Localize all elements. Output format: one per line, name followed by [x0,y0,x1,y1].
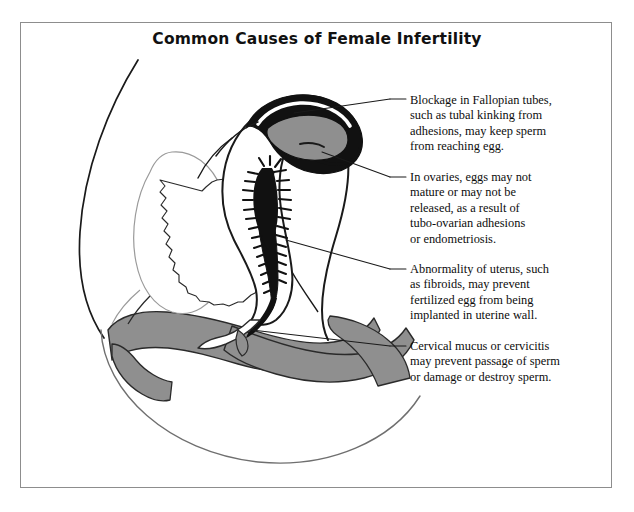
callout-line: adhesions, may keep sperm [410,124,622,139]
callout-line: from reaching egg. [410,139,622,154]
callout-line: such as tubal kinking from [410,108,622,123]
callout-line: or damage or destroy sperm. [410,370,622,385]
callout-line: tubo-ovarian adhesions [410,216,622,231]
diagram-page: Common Causes of Female Infertility [0,0,634,512]
callout-line: In ovaries, eggs may not [410,170,622,185]
anatomy-illustration [0,0,634,512]
callout-line: Cervical mucus or cervicitis [410,339,622,354]
callout-line: Blockage in Fallopian tubes, [410,93,622,108]
callout-line: as fibroids, may prevent [410,277,622,292]
leader-line-uterus [286,240,390,269]
callout-cervix: Cervical mucus or cervicitis may prevent… [410,339,622,385]
anal-canal [112,344,172,401]
callout-ovaries: In ovaries, eggs may not mature or may n… [410,170,622,247]
callout-line: Abnormality of uterus, such [410,262,622,277]
callout-line: fertilized egg from being [410,293,622,308]
callout-line: may prevent passage of sperm [410,354,622,369]
callout-uterus: Abnormality of uterus, such as fibroids,… [410,262,622,324]
callout-line: implanted in uterine wall. [410,308,622,323]
uterus-inner-contour [292,272,318,312]
callout-fallopian-tubes: Blockage in Fallopian tubes, such as tub… [410,93,622,155]
callout-line: mature or may not be [410,185,622,200]
callout-line: or endometriosis. [410,232,622,247]
abdominal-wall-outline [79,60,138,338]
callout-line: released, as a result of [410,201,622,216]
